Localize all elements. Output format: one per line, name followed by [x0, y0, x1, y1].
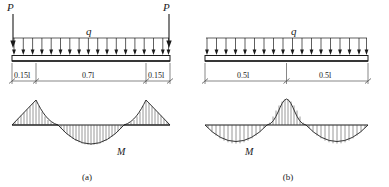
distributed-load-arrows-b [206, 38, 367, 53]
moment-label-b: M [244, 146, 254, 157]
moment-diagram-a [12, 100, 170, 145]
dimension-label-b-1: 0.5l [237, 71, 250, 80]
moment-hatch-a-mid [61, 125, 121, 145]
point-load-right-label: P [162, 1, 170, 13]
moment-hatch-a-right [128, 100, 167, 125]
moment-diagram-b [205, 99, 368, 144]
panel-b: q [195, 0, 389, 187]
panel-b-drawing: q [195, 0, 389, 187]
dimension-label-a-2: 0.7l [82, 71, 95, 80]
panel-a-drawing: P P q [0, 0, 195, 187]
caption-b: (b) [283, 172, 294, 182]
caption-a: (a) [82, 172, 92, 182]
moment-lobe-a-right [124, 100, 170, 125]
moment-lobe-a-left [12, 100, 58, 125]
moment-hatch-b-left [208, 125, 264, 144]
panel-a: P P q [0, 0, 195, 187]
moment-hatch-b-center [270, 99, 303, 125]
distributed-load-label-b: q [291, 25, 297, 37]
point-load-left [10, 14, 15, 48]
point-load-left-label: P [6, 1, 14, 13]
figure-root: P P q [0, 0, 389, 187]
moment-hatch-a-left [15, 100, 54, 125]
dimension-label-a-1: 0.15l [14, 71, 31, 80]
point-load-right [166, 14, 171, 48]
dimension-label-a-3: 0.15l [148, 71, 165, 80]
beam-b [205, 56, 368, 62]
distributed-load-arrowheads-b [205, 50, 368, 56]
moment-label-a: M [116, 146, 126, 157]
moment-hatch-b-right [309, 125, 365, 144]
dimension-label-b-2: 0.5l [319, 71, 332, 80]
beam-a [12, 56, 170, 62]
distributed-load-arrowheads-a [12, 50, 170, 56]
distributed-load-label-a: q [86, 25, 92, 37]
